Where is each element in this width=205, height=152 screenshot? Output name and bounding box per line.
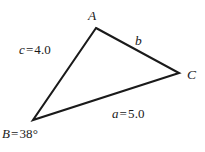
vertex-label-c: C <box>187 68 196 82</box>
side-label-a: a=5.0 <box>112 107 145 120</box>
side-a-variable: a <box>112 106 119 121</box>
side-c-variable: c <box>19 42 25 57</box>
side-c-value: 4.0 <box>34 42 51 57</box>
side-label-b: b <box>135 34 142 48</box>
angle-b-value: 38° <box>19 126 38 141</box>
triangle-shape <box>33 28 179 120</box>
side-label-c: c=4.0 <box>19 43 51 56</box>
side-c-equals: = <box>25 42 34 57</box>
side-a-value: 5.0 <box>128 106 145 121</box>
angle-b-variable: B <box>2 126 10 141</box>
triangle-figure: A C b c=4.0 a=5.0 B=38° <box>0 0 205 152</box>
side-a-equals: = <box>119 106 128 121</box>
vertex-label-a: A <box>88 9 96 23</box>
angle-label-b: B=38° <box>2 127 38 140</box>
